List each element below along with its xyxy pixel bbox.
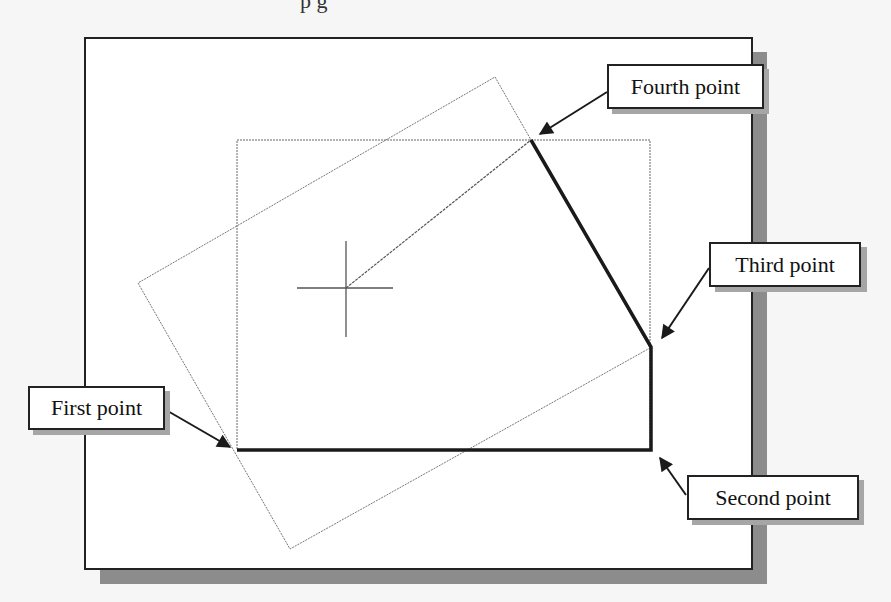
arrow-second: [660, 458, 686, 495]
label-first-point: First point: [28, 386, 165, 430]
label-fourth-point: Fourth point: [607, 64, 764, 109]
reference-rectangle: [237, 140, 650, 450]
polyline-segments: [237, 140, 651, 450]
rotated-rectangle: [138, 77, 650, 549]
arrow-fourth: [540, 92, 607, 134]
rubber-band-line: [346, 140, 531, 288]
callout-arrows: [166, 92, 709, 495]
crosshair-icon: [297, 241, 393, 337]
arrow-first: [166, 410, 230, 447]
label-second-point: Second point: [687, 475, 859, 520]
label-third-point: Third point: [709, 242, 861, 287]
arrow-third: [662, 268, 709, 338]
